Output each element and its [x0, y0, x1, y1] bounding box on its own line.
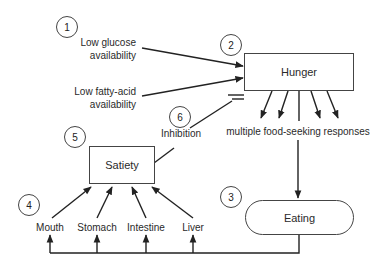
- low-glucose-line-1: Low glucose: [40, 36, 136, 49]
- step-1-badge: 1: [56, 16, 78, 38]
- low-fatty-acid-line-1: Low fatty-acid: [40, 85, 136, 98]
- step-6-badge: 6: [169, 106, 191, 128]
- inhibition-label: Inhibition: [161, 127, 201, 140]
- low-fatty-acid-label: Low fatty-acid availability: [40, 85, 136, 111]
- satiety-box: Satiety: [89, 146, 155, 184]
- organ-liver: Liver: [182, 221, 204, 234]
- low-fatty-acid-line-2: availability: [40, 98, 136, 111]
- hunger-box: Hunger: [244, 53, 354, 91]
- responses-label: multiple food-seeking responses: [226, 125, 369, 138]
- organ-mouth: Mouth: [36, 221, 64, 234]
- eating-node: Eating: [245, 200, 354, 235]
- low-glucose-line-2: availability: [40, 49, 136, 62]
- step-4-badge: 4: [18, 194, 40, 216]
- low-glucose-label: Low glucose availability: [40, 36, 136, 62]
- step-3-badge: 3: [220, 186, 242, 208]
- step-2-badge: 2: [220, 34, 242, 56]
- organ-intestine: Intestine: [127, 221, 165, 234]
- step-5-badge: 5: [64, 126, 86, 148]
- organ-stomach: Stomach: [77, 221, 116, 234]
- fatty-acid-arrow: [142, 78, 243, 96]
